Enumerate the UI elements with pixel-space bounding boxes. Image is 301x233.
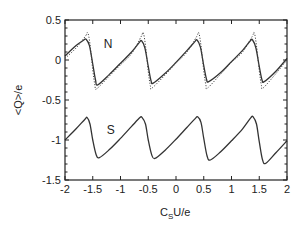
- x-tick-label: 1.5: [252, 183, 267, 195]
- series-layer: [65, 32, 287, 163]
- x-tick-label: -1: [116, 183, 126, 195]
- y-tick-label: -1.5: [42, 174, 61, 186]
- x-tick-label: 2: [284, 183, 290, 195]
- ticks-layer: [65, 20, 287, 180]
- x-tick-label: 1: [228, 183, 234, 195]
- x-tick-label: -1.5: [83, 183, 102, 195]
- y-tick-label: 0: [55, 54, 61, 66]
- x-axis-label: CSU/e: [160, 206, 190, 221]
- y-axis-label: <Q>/e: [12, 85, 24, 116]
- series-line-n-solid: [65, 39, 287, 85]
- annotation-N: N: [104, 37, 113, 51]
- x-axis-label-rest: U/e: [173, 206, 190, 218]
- chart: -2-1.5-1-0.500.511.52 0.50-0.5-1-1.5 N S…: [0, 0, 301, 233]
- x-axis-label-main: C: [160, 206, 168, 218]
- annotation-S: S: [107, 123, 115, 137]
- x-tick-labels: -2-1.5-1-0.500.511.52: [60, 183, 290, 195]
- y-tick-label: 0.5: [46, 14, 61, 26]
- x-tick-label: 0: [173, 183, 179, 195]
- plot-frame: [65, 20, 287, 180]
- series-line-s: [65, 116, 287, 164]
- x-tick-label: 0.5: [196, 183, 211, 195]
- y-tick-labels: 0.50-0.5-1-1.5: [42, 14, 61, 186]
- x-tick-label: -0.5: [139, 183, 158, 195]
- y-tick-label: -1: [51, 134, 61, 146]
- y-tick-label: -0.5: [42, 94, 61, 106]
- x-tick-label: -2: [60, 183, 70, 195]
